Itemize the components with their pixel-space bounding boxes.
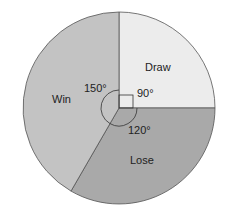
angle-label-lose: 120° bbox=[128, 124, 151, 136]
pie-chart: Draw Win Lose 90° 150° 120° bbox=[0, 0, 233, 222]
sector-draw bbox=[119, 12, 215, 108]
label-win: Win bbox=[52, 93, 71, 105]
angle-label-draw: 90° bbox=[137, 87, 154, 99]
label-draw: Draw bbox=[145, 61, 171, 73]
label-lose: Lose bbox=[130, 154, 154, 166]
angle-label-win: 150° bbox=[84, 82, 107, 94]
